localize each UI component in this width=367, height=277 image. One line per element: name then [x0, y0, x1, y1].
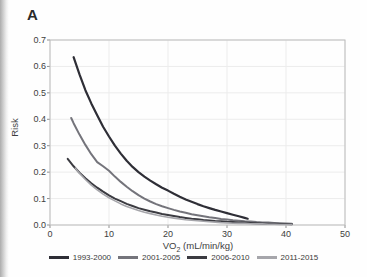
x-tick-10: 10	[94, 229, 124, 239]
legend-item-1993-2000: 1993-2000	[49, 253, 111, 262]
x-axis-title-units: (mL/min/kg)	[180, 240, 233, 251]
x-tick-0: 0	[35, 229, 65, 239]
x-tick-30: 30	[212, 229, 242, 239]
x-tick-20: 20	[153, 229, 183, 239]
legend-label: 2001-2005	[142, 253, 180, 262]
y-axis-title: Risk	[9, 113, 20, 143]
y-tick-0.4: 0.4	[22, 114, 46, 124]
x-tick-40: 40	[271, 229, 301, 239]
chart-legend: 1993-2000 2001-2005 2006-2010 2011-2015	[16, 253, 351, 262]
x-tick-50: 50	[330, 229, 360, 239]
x-axis-title-main: VO	[163, 240, 177, 251]
legend-label: 2006-2010	[211, 253, 249, 262]
y-tick-0.7: 0.7	[22, 35, 46, 45]
legend-label: 1993-2000	[73, 253, 111, 262]
legend-swatch-3	[257, 256, 277, 259]
y-tick-0.2: 0.2	[22, 167, 46, 177]
y-tick-0.3: 0.3	[22, 141, 46, 151]
legend-item-2006-2010: 2006-2010	[187, 253, 249, 262]
y-tick-0.6: 0.6	[22, 61, 46, 71]
y-tick-0.5: 0.5	[22, 88, 46, 98]
legend-item-2001-2005: 2001-2005	[118, 253, 180, 262]
legend-swatch-0	[49, 256, 69, 259]
legend-swatch-2	[187, 256, 207, 259]
legend-item-2011-2015: 2011-2015	[257, 253, 319, 262]
figure-panel: A Risk 0.7 0.6 0.5 0.4 0.3 0.2 0.1 0.0 0…	[0, 0, 367, 277]
y-tick-0.1: 0.1	[22, 194, 46, 204]
legend-label: 2011-2015	[281, 253, 319, 262]
legend-swatch-1	[118, 256, 138, 259]
